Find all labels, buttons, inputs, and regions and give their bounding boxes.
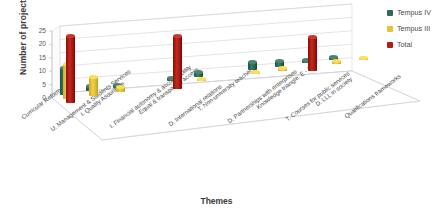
bar-top-cap: [359, 56, 368, 60]
legend-item-tempus-iii[interactable]: Tempus III: [387, 24, 431, 33]
bar-tempus-iii-11: [359, 58, 368, 61]
y-axis-title: Number of projects: [18, 0, 28, 82]
bar-body: [308, 37, 317, 72]
plot-surface-svg: [0, 0, 433, 216]
bar-body: [173, 36, 182, 90]
x-axis-title: Themes: [0, 196, 433, 206]
ytick-label-5: 5: [33, 81, 46, 88]
ytick-label-15: 15: [33, 54, 46, 61]
bar-tempus-iv-7: [248, 62, 257, 70]
legend-swatch-tempus-iv: [387, 10, 393, 16]
legend-item-tempus-iv[interactable]: Tempus IV: [387, 8, 431, 17]
bar-tempus-iii-1: [89, 77, 98, 96]
bar-tempus-iii-5: [197, 79, 206, 82]
legend-label-tempus-iii: Tempus III: [397, 24, 430, 33]
bar-top-cap: [332, 59, 341, 63]
legend: Tempus IV Tempus III Total: [387, 8, 431, 56]
bar-total-9: [308, 37, 317, 72]
legend-swatch-total: [387, 42, 393, 48]
chart-container: 25 20 15 10 5 0 Number of projects Theme…: [0, 0, 433, 216]
ytick-label-10: 10: [33, 67, 46, 74]
bar-top-cap: [116, 85, 125, 89]
bar-body: [89, 77, 98, 96]
legend-label-total: Total: [397, 40, 412, 49]
legend-swatch-tempus-iii: [387, 26, 393, 32]
bar-tempus-iii-10: [332, 61, 341, 64]
bar-total-4: [173, 36, 182, 90]
bar-total-0: [66, 36, 75, 103]
bar-top-cap: [197, 77, 206, 81]
ytick-label-20: 20: [33, 40, 46, 47]
legend-item-total[interactable]: Total: [387, 40, 431, 49]
plot-area: [0, 0, 433, 216]
bar-tempus-iii-8: [278, 68, 287, 71]
ytick-label-25: 25: [33, 27, 46, 34]
bar-top-cap: [194, 70, 203, 74]
bar-body: [66, 36, 75, 103]
bar-tempus-iii-7: [251, 72, 260, 75]
bar-top-cap: [173, 34, 182, 38]
bar-tempus-iii-2: [116, 87, 125, 92]
bar-top-cap: [308, 35, 317, 39]
legend-label-tempus-iv: Tempus IV: [397, 8, 431, 17]
bar-top-cap: [251, 70, 260, 74]
